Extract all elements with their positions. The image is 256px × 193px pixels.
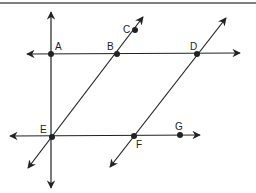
line-FD [110,18,226,167]
point-E [49,134,55,140]
label-E: E [40,124,47,135]
geometry-diagram: A B C D E F G [0,0,256,193]
point-A [48,51,54,57]
label-F: F [136,139,142,150]
label-A: A [55,41,62,52]
label-B: B [107,41,114,52]
label-G: G [175,121,183,132]
point-C [132,27,138,33]
line-AD [27,53,240,54]
label-C: C [123,24,130,35]
label-D: D [190,41,197,52]
line-EG [10,135,200,136]
point-B [114,51,120,57]
point-G [177,132,183,138]
line-EC [28,17,143,168]
